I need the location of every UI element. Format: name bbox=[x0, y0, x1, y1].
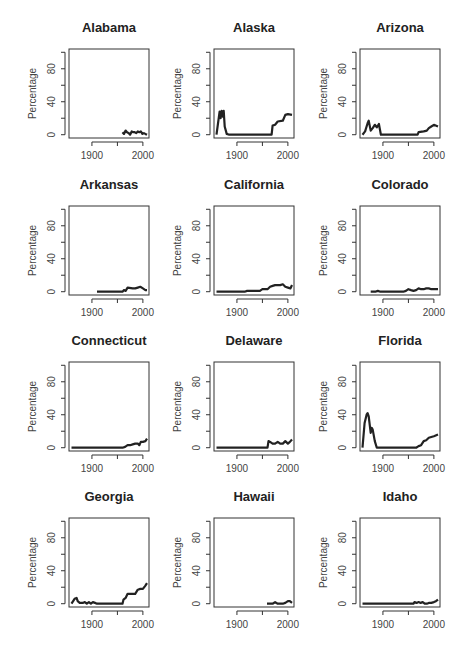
data-line bbox=[217, 440, 293, 448]
line-plot: 04080Percentage19002000 bbox=[145, 0, 300, 157]
plot-frame bbox=[69, 49, 149, 138]
chart-panel-california: California04080Percentage19002000 bbox=[145, 157, 300, 314]
y-axis-label: Percentage bbox=[318, 380, 329, 432]
line-plot: 04080Percentage19002000 bbox=[291, 157, 446, 314]
y-tick-label: 0 bbox=[191, 600, 202, 606]
y-axis-label: Percentage bbox=[318, 536, 329, 588]
y-tick-label: 80 bbox=[46, 376, 57, 388]
y-tick-label: 0 bbox=[46, 600, 57, 606]
y-tick-label: 0 bbox=[191, 444, 202, 450]
line-plot: 04080Percentage19002000 bbox=[291, 0, 446, 157]
data-line bbox=[363, 600, 439, 604]
y-axis-label: Percentage bbox=[172, 536, 183, 588]
data-line bbox=[123, 131, 148, 135]
y-tick-label: 80 bbox=[337, 220, 348, 232]
line-plot: 04080Percentage19002000 bbox=[0, 313, 155, 470]
y-tick-label: 0 bbox=[337, 288, 348, 294]
y-axis-label: Percentage bbox=[172, 380, 183, 432]
y-axis-label: Percentage bbox=[27, 224, 38, 276]
x-tick-label: 2000 bbox=[423, 619, 446, 630]
y-tick-label: 40 bbox=[46, 409, 57, 421]
y-axis-label: Percentage bbox=[318, 224, 329, 276]
plot-frame bbox=[214, 49, 294, 138]
chart-panel-arkansas: Arkansas04080Percentage19002000 bbox=[0, 157, 155, 314]
y-tick-label: 40 bbox=[191, 253, 202, 265]
data-line bbox=[363, 413, 439, 448]
y-tick-label: 80 bbox=[46, 532, 57, 544]
x-tick-label: 1900 bbox=[81, 619, 104, 630]
y-tick-label: 40 bbox=[46, 565, 57, 577]
plot-frame bbox=[214, 362, 294, 451]
data-line bbox=[363, 121, 439, 135]
y-tick-label: 80 bbox=[337, 63, 348, 75]
data-line bbox=[72, 439, 148, 448]
y-axis-label: Percentage bbox=[318, 67, 329, 119]
line-plot: 04080Percentage19002000 bbox=[291, 313, 446, 470]
data-line bbox=[217, 284, 293, 291]
y-axis-label: Percentage bbox=[27, 67, 38, 119]
y-tick-label: 80 bbox=[191, 63, 202, 75]
plot-frame bbox=[69, 206, 149, 295]
line-plot: 04080Percentage19002000 bbox=[0, 157, 155, 314]
y-tick-label: 40 bbox=[46, 96, 57, 108]
line-plot: 04080Percentage19002000 bbox=[0, 469, 155, 626]
plot-frame bbox=[360, 206, 440, 295]
line-plot: 04080Percentage19002000 bbox=[0, 0, 155, 157]
y-tick-label: 0 bbox=[337, 600, 348, 606]
y-axis-label: Percentage bbox=[172, 224, 183, 276]
y-tick-label: 0 bbox=[46, 131, 57, 137]
chart-panel-georgia: Georgia04080Percentage19002000 bbox=[0, 469, 155, 626]
y-tick-label: 40 bbox=[337, 409, 348, 421]
data-line bbox=[72, 583, 148, 604]
chart-panel-florida: Florida04080Percentage19002000 bbox=[291, 313, 446, 470]
chart-panel-alabama: Alabama04080Percentage19002000 bbox=[0, 0, 155, 157]
y-tick-label: 0 bbox=[337, 444, 348, 450]
y-tick-label: 80 bbox=[46, 63, 57, 75]
y-tick-label: 40 bbox=[337, 96, 348, 108]
y-tick-label: 0 bbox=[337, 131, 348, 137]
plot-frame bbox=[69, 518, 149, 607]
y-axis-label: Percentage bbox=[172, 67, 183, 119]
y-tick-label: 80 bbox=[46, 220, 57, 232]
y-axis-label: Percentage bbox=[27, 536, 38, 588]
chart-panel-idaho: Idaho04080Percentage19002000 bbox=[291, 469, 446, 626]
y-tick-label: 0 bbox=[46, 288, 57, 294]
line-plot: 04080Percentage19002000 bbox=[291, 469, 446, 626]
y-tick-label: 40 bbox=[46, 253, 57, 265]
chart-panel-hawaii: Hawaii04080Percentage19002000 bbox=[145, 469, 300, 626]
x-tick-label: 1900 bbox=[372, 619, 395, 630]
chart-panel-delaware: Delaware04080Percentage19002000 bbox=[145, 313, 300, 470]
y-axis-label: Percentage bbox=[27, 380, 38, 432]
data-line bbox=[267, 601, 292, 604]
line-plot: 04080Percentage19002000 bbox=[145, 469, 300, 626]
y-tick-label: 80 bbox=[337, 532, 348, 544]
y-tick-label: 0 bbox=[46, 444, 57, 450]
chart-panel-alaska: Alaska04080Percentage19002000 bbox=[145, 0, 300, 157]
y-tick-label: 80 bbox=[337, 376, 348, 388]
plot-frame bbox=[214, 518, 294, 607]
y-tick-label: 0 bbox=[191, 288, 202, 294]
line-plot: 04080Percentage19002000 bbox=[145, 313, 300, 470]
y-tick-label: 40 bbox=[191, 409, 202, 421]
plot-frame bbox=[69, 362, 149, 451]
chart-panel-colorado: Colorado04080Percentage19002000 bbox=[291, 157, 446, 314]
line-plot: 04080Percentage19002000 bbox=[145, 157, 300, 314]
plot-frame bbox=[360, 49, 440, 138]
y-tick-label: 40 bbox=[191, 96, 202, 108]
y-tick-label: 80 bbox=[191, 376, 202, 388]
data-line bbox=[217, 111, 293, 135]
chart-panel-arizona: Arizona04080Percentage19002000 bbox=[291, 0, 446, 157]
x-tick-label: 1900 bbox=[226, 619, 249, 630]
plot-frame bbox=[214, 206, 294, 295]
y-tick-label: 40 bbox=[191, 565, 202, 577]
data-line bbox=[371, 288, 438, 291]
y-tick-label: 0 bbox=[191, 131, 202, 137]
y-tick-label: 40 bbox=[337, 253, 348, 265]
y-tick-label: 80 bbox=[191, 532, 202, 544]
data-line bbox=[97, 287, 147, 292]
plot-frame bbox=[360, 518, 440, 607]
chart-panel-connecticut: Connecticut04080Percentage19002000 bbox=[0, 313, 155, 470]
y-tick-label: 40 bbox=[337, 565, 348, 577]
y-tick-label: 80 bbox=[191, 220, 202, 232]
